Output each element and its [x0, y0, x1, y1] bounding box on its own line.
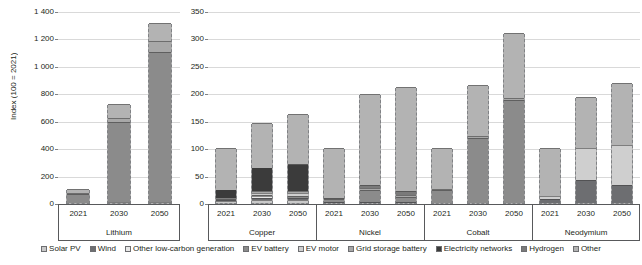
bar-segment-grid-storage-battery — [432, 189, 452, 190]
legend-swatch-icon — [436, 246, 442, 252]
bar-segment-wind — [360, 202, 380, 203]
group-separator — [208, 205, 209, 240]
group-separator — [639, 205, 640, 240]
gridline — [58, 12, 180, 13]
group-separator — [532, 205, 533, 240]
bar-copper-2030 — [251, 124, 273, 204]
legend-label: Other — [581, 244, 601, 253]
x-axis-category-label: 2021 — [316, 209, 352, 218]
bar-segment-hydrogen — [396, 191, 416, 194]
y-axis-tick-label: 600 — [12, 117, 54, 126]
bar-segment-electricity-networks — [252, 168, 272, 191]
bar-cobalt-2030 — [467, 86, 489, 204]
x-axis-group-label: Copper — [208, 228, 316, 237]
bar-segment-ev-motor — [612, 145, 632, 185]
bar-segment-ev-battery — [252, 195, 272, 196]
legend-swatch-icon — [90, 246, 96, 252]
bar-segment-solar-pv — [252, 200, 272, 203]
legend-item: Wind — [90, 244, 116, 253]
bar-cobalt-2021 — [431, 149, 453, 204]
bar-segment-other — [252, 123, 272, 167]
chart-legend: Solar PVWindOther low-carbon generationE… — [0, 244, 642, 253]
legend-item: Hydrogen — [521, 244, 564, 253]
x-axis-group-label: Lithium — [58, 228, 180, 237]
bar-segment-ev-motor — [540, 196, 560, 198]
y-axis-tick-label: 1 000 — [12, 62, 54, 71]
legend-label: EV motor — [306, 244, 339, 253]
legend-item: Electricity networks — [436, 244, 512, 253]
category-box-bottom-border — [58, 240, 180, 241]
bar-segment-other — [540, 148, 560, 196]
y-axis-tick-label: 1 400 — [12, 7, 54, 16]
bar-segment-other — [396, 87, 416, 192]
bar-segment-other-low-carbon-generation — [252, 196, 272, 197]
bar-segment-other — [149, 23, 171, 40]
bar-segment-ev-motor — [216, 198, 236, 199]
bar-copper-2050 — [287, 115, 309, 204]
legend-label: Wind — [98, 244, 116, 253]
legend-item: EV battery — [243, 244, 288, 253]
x-axis-group-label: Neodymium — [532, 228, 640, 237]
x-axis-group-label: Cobalt — [424, 228, 532, 237]
y-axis-tick-label: 150 — [182, 117, 204, 126]
bar-segment-electricity-networks — [216, 190, 236, 197]
bar-segment-grid-storage-battery — [396, 195, 416, 197]
x-axis-category-label: 2030 — [99, 209, 140, 218]
y-axis-tick-mark — [205, 39, 208, 40]
bar-segment-ev-battery — [67, 194, 89, 203]
x-axis-category-label: 2021 — [58, 209, 99, 218]
legend-label: Grid storage battery — [356, 244, 427, 253]
legend-swatch-icon — [348, 246, 354, 252]
y-axis-tick-mark — [55, 122, 58, 123]
y-axis-tick-mark — [205, 67, 208, 68]
bar-segment-ev-battery — [468, 138, 488, 203]
legend-swatch-icon — [125, 246, 131, 252]
legend-swatch-icon — [573, 246, 579, 252]
bar-segment-wind — [288, 198, 308, 200]
bar-segment-other — [468, 85, 488, 136]
bar-segment-electricity-networks — [288, 165, 308, 191]
chart-panel-other-minerals: 050100150200250300350202120302050Copper2… — [182, 12, 640, 250]
y-axis-tick-mark — [55, 39, 58, 40]
bar-segment-other-low-carbon-generation — [360, 201, 380, 202]
bar-segment-ev-battery — [288, 196, 308, 197]
x-axis-category-label: 2030 — [352, 209, 388, 218]
bar-segment-grid-storage-battery — [504, 98, 524, 101]
y-axis-tick-label: 0 — [182, 199, 204, 208]
bar-nickel-2030 — [359, 95, 381, 204]
x-axis-category-label: 2021 — [424, 209, 460, 218]
legend-swatch-icon — [41, 246, 47, 252]
x-axis-category-label: 2050 — [139, 209, 180, 218]
bar-segment-solar-pv — [216, 201, 236, 203]
y-axis-tick-mark — [205, 12, 208, 13]
bar-segment-other — [360, 94, 380, 185]
group-separator — [58, 205, 59, 240]
bar-segment-ev-motor — [288, 193, 308, 196]
bar-segment-other — [108, 104, 130, 118]
group-separator — [179, 205, 180, 240]
bar-segment-ev-battery — [396, 197, 416, 201]
x-axis-group-label: Nickel — [316, 228, 424, 237]
bar-segment-ev-battery — [360, 190, 380, 200]
x-axis-category-label: 2030 — [244, 209, 280, 218]
gridline — [208, 39, 640, 40]
y-axis-tick-mark — [55, 94, 58, 95]
bar-segment-wind — [396, 202, 416, 203]
y-axis-tick-mark — [55, 149, 58, 150]
bar-segment-ev-motor — [252, 193, 272, 196]
y-axis-tick-label: 250 — [182, 62, 204, 71]
chart-root: Index (100 = 2021) 02004006008001 0001 2… — [0, 0, 642, 265]
y-axis-tick-label: 50 — [182, 172, 204, 181]
bar-segment-other — [288, 114, 308, 164]
x-axis-category-label: 2030 — [568, 209, 604, 218]
y-axis-tick-label: 200 — [12, 172, 54, 181]
legend-item: EV motor — [298, 244, 339, 253]
y-axis-tick-label: 1 200 — [12, 34, 54, 43]
bar-segment-grid-storage-battery — [288, 191, 308, 193]
bar-neodymium-2030 — [575, 98, 597, 204]
bar-neodymium-2050 — [611, 84, 633, 204]
y-axis-tick-label: 350 — [182, 7, 204, 16]
group-separator — [424, 205, 425, 240]
legend-swatch-icon — [243, 246, 249, 252]
x-axis-category-label: 2030 — [460, 209, 496, 218]
